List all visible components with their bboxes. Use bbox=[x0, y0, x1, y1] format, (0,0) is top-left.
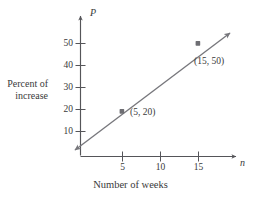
point-label-15-50: (15, 50) bbox=[194, 56, 224, 66]
data-line bbox=[75, 33, 230, 150]
x-axis-title: Number of weeks bbox=[0, 179, 261, 190]
x-tick-label-15: 15 bbox=[189, 162, 209, 172]
y-tick-label-10: 10 bbox=[51, 126, 73, 136]
y-tick-label-20: 20 bbox=[51, 104, 73, 114]
y-tick-label-50: 50 bbox=[51, 38, 73, 48]
x-tick-label-5: 5 bbox=[113, 162, 133, 172]
y-axis-variable-label: P bbox=[90, 8, 96, 19]
data-point-marker bbox=[120, 109, 125, 114]
point-label-5-20: (5, 20) bbox=[130, 107, 155, 117]
chart-figure: P n 50 40 30 20 10 5 10 15 (5, 20) (15, … bbox=[0, 0, 261, 199]
y-tick-label-40: 40 bbox=[51, 60, 73, 70]
y-axis-title-line2: increase bbox=[0, 90, 48, 102]
y-tick-label-30: 30 bbox=[51, 82, 73, 92]
data-point-marker bbox=[196, 41, 201, 46]
x-axis-variable-label: n bbox=[240, 158, 245, 169]
x-tick-label-10: 10 bbox=[151, 162, 171, 172]
y-axis-title-line1: Percent of bbox=[0, 78, 48, 90]
